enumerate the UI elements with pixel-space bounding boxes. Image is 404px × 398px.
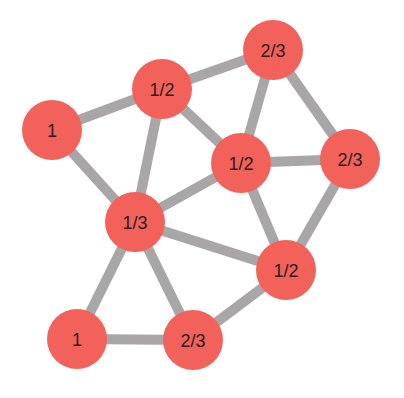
- node-G: 1/2: [256, 240, 316, 300]
- node-label: 1/3: [122, 213, 147, 233]
- node-I: 2/3: [163, 310, 223, 370]
- node-label: 2/3: [337, 150, 362, 170]
- node-label: 2/3: [260, 41, 285, 61]
- node-B: 1/2: [132, 59, 192, 119]
- node-E: 2/3: [320, 129, 380, 189]
- graph-diagram: 11/22/31/22/31/31/212/3: [0, 0, 404, 398]
- node-label: 1/2: [228, 154, 253, 174]
- node-label: 1: [72, 330, 82, 350]
- node-F: 1/3: [105, 192, 165, 252]
- node-D: 1/2: [211, 133, 271, 193]
- node-H: 1: [47, 309, 107, 369]
- node-label: 1/2: [149, 80, 174, 100]
- node-label: 1: [47, 121, 57, 141]
- node-label: 2/3: [180, 331, 205, 351]
- node-label: 1/2: [273, 261, 298, 281]
- edges-layer: [52, 50, 350, 340]
- node-C: 2/3: [243, 20, 303, 80]
- node-A: 1: [22, 100, 82, 160]
